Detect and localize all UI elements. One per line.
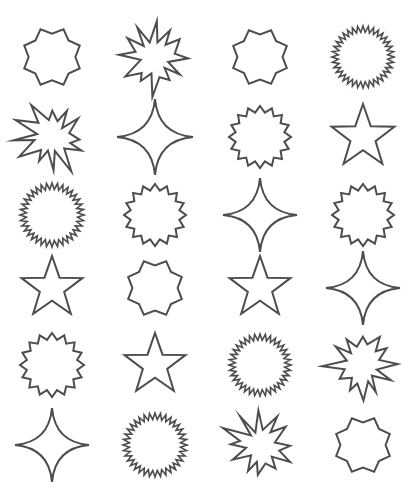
- star-5-icon: [117, 327, 193, 403]
- shape-sparkle-4-r6c1: [9, 402, 95, 488]
- starburst-fine-icon: [14, 177, 90, 253]
- star-5-icon: [222, 250, 298, 326]
- shape-octagram-blunt-r4c2: [120, 253, 190, 323]
- octagram-blunt-icon: [16, 21, 88, 93]
- star-16-icon: [14, 327, 90, 403]
- octagram-blunt-icon: [225, 22, 295, 92]
- shape-sparkle-4-r2c2: [111, 93, 199, 181]
- shape-burst-irregular-r5c4: [321, 323, 405, 407]
- octagram-blunt-icon: [120, 253, 190, 323]
- shape-star-5-r2c4: [324, 98, 402, 176]
- shape-starburst-fine-r1c4: [326, 20, 400, 94]
- shape-starburst-fine-r6c2: [117, 407, 193, 483]
- shape-octagram-blunt-r1c1: [16, 21, 88, 93]
- star-16-icon: [223, 100, 297, 174]
- sparkle-4-icon: [9, 402, 95, 488]
- shape-star-5-r5c2: [117, 327, 193, 403]
- sparkle-4-icon: [111, 93, 199, 181]
- shape-star-16-r2c3: [223, 100, 297, 174]
- starburst-fine-icon: [117, 407, 193, 483]
- star-16-icon: [326, 178, 400, 252]
- star-5-icon: [324, 98, 402, 176]
- burst-irregular-icon: [112, 14, 198, 100]
- starburst-fine-icon: [223, 328, 297, 402]
- star-5-icon: [14, 250, 90, 326]
- shape-star-5-r4c1: [14, 250, 90, 326]
- shape-star-5-r4c3: [222, 250, 298, 326]
- starburst-fine-icon: [326, 20, 400, 94]
- shape-star-16-r3c4: [326, 178, 400, 252]
- shape-grid: [0, 0, 419, 501]
- star-16-icon: [118, 178, 192, 252]
- burst-irregular-icon: [321, 323, 405, 407]
- octagram-blunt-icon: [328, 410, 398, 480]
- shape-starburst-fine-r5c3: [223, 328, 297, 402]
- shape-octagram-blunt-r6c4: [328, 410, 398, 480]
- sparkle-4-icon: [320, 245, 406, 331]
- shape-burst-irregular-r1c2: [112, 14, 198, 100]
- shape-octagram-blunt-r1c3: [225, 22, 295, 92]
- shape-starburst-fine-r3c1: [14, 177, 90, 253]
- shape-burst-irregular-r6c3: [218, 403, 302, 487]
- shape-star-16-r5c1: [14, 327, 90, 403]
- shape-sparkle-4-r4c4: [320, 245, 406, 331]
- shape-burst-irregular-r2c1: [10, 95, 94, 179]
- shape-sparkle-4-r3c3: [217, 172, 303, 258]
- sparkle-4-icon: [217, 172, 303, 258]
- shape-star-16-r3c2: [118, 178, 192, 252]
- burst-irregular-icon: [218, 403, 302, 487]
- burst-irregular-icon: [10, 95, 94, 179]
